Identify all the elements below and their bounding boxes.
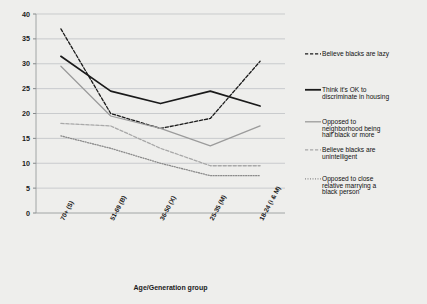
x-axis-tick-label: 25-35 (M) [208,194,228,222]
legend-label[interactable]: half black or more [322,131,375,138]
x-axis-tick-label: 51-69 (B) [108,194,128,222]
y-axis-tick-label: 35 [22,34,30,43]
chart-container: 051015202530354070+ (S)51-69 (B)36-50 (X… [0,0,427,304]
x-axis-tick-label: 70+ (S) [59,200,76,222]
x-axis-tick-label: 36-50 (X) [158,195,178,222]
line-chart: 051015202530354070+ (S)51-69 (B)36-50 (X… [0,0,427,304]
series-line [61,123,260,165]
legend-label[interactable]: Believe blacks are lazy [322,50,390,58]
series-line [61,136,260,176]
y-axis-tick-label: 0 [26,209,30,218]
y-axis-tick-label: 25 [22,84,30,93]
legend-label[interactable]: unintelligent [322,153,357,161]
x-axis-title: Age/Generation group [134,284,208,292]
y-axis-tick-label: 40 [22,10,30,19]
y-axis-tick-label: 5 [26,184,30,193]
legend-label[interactable]: black person [322,188,360,196]
y-axis-tick-label: 30 [22,59,30,68]
y-axis-tick-label: 20 [22,109,30,118]
y-axis-tick-label: 15 [22,134,30,143]
x-axis-tick-label: 18-24 (i & M) [258,185,283,222]
legend-label[interactable]: discriminate in housing [322,93,389,101]
y-axis-tick-label: 10 [22,159,30,168]
